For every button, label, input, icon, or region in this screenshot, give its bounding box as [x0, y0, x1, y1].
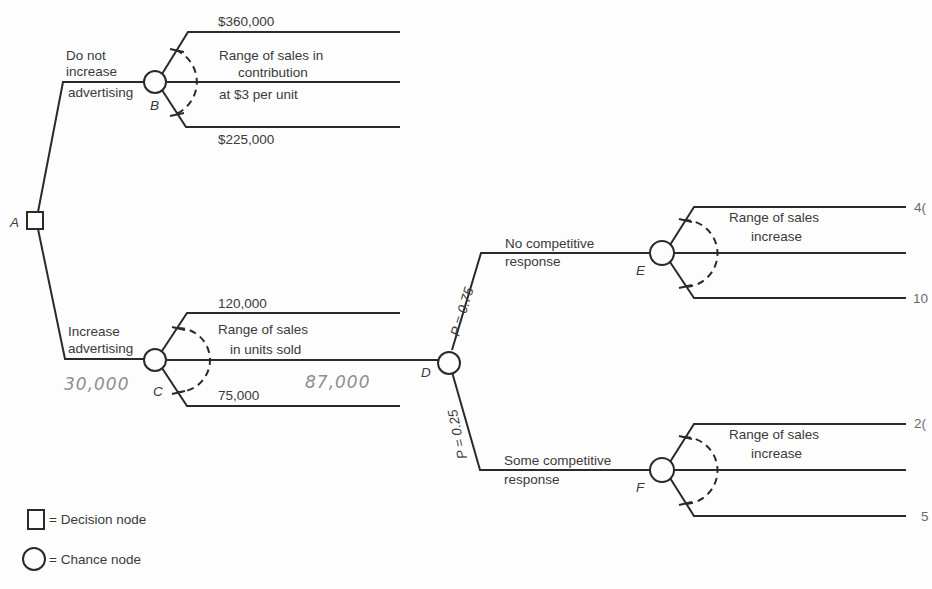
- node-label-e: E: [636, 263, 646, 278]
- branch-do-not-increase: [38, 82, 145, 212]
- branch-label-increase-2: advertising: [68, 341, 133, 356]
- f-high-value-cropped: 2(: [914, 416, 927, 431]
- e-low-value-cropped: 10: [913, 291, 928, 306]
- node-label-d: D: [421, 365, 431, 380]
- legend-decision-label: = Decision node: [49, 512, 146, 527]
- chance-node-e: [650, 241, 674, 265]
- branch-label-do-not-3: advertising: [68, 85, 133, 100]
- f-low-value-cropped: 5: [921, 509, 929, 524]
- b-range-text-2: contribution: [238, 65, 308, 80]
- chance-node-b: [144, 71, 166, 93]
- d-top-label-1: No competitive: [505, 236, 594, 251]
- c-range-text-1: Range of sales: [218, 322, 308, 337]
- node-label-a: A: [9, 215, 19, 230]
- chance-node-d: [438, 352, 460, 374]
- chance-node-f: [650, 458, 674, 482]
- c-range-text-2: in units sold: [230, 342, 301, 357]
- e-high-value-cropped: 4(: [914, 200, 927, 215]
- branch-label-do-not-2: increase: [66, 64, 117, 79]
- node-label-f: F: [636, 480, 645, 495]
- b-low-value: $225,000: [218, 132, 274, 147]
- c-high-value: 120,000: [218, 296, 267, 311]
- decision-node-a: [27, 212, 43, 229]
- branch-increase: [38, 229, 145, 359]
- e-range-text-1: Range of sales: [729, 210, 819, 225]
- e-range-text-2: increase: [751, 229, 802, 244]
- d-bottom-label-1: Some competitive: [504, 453, 611, 468]
- branch-label-increase-1: Increase: [68, 324, 120, 339]
- legend-decision-icon: [28, 510, 44, 529]
- legend-chance-label: = Chance node: [49, 552, 141, 567]
- c-low-value: 75,000: [218, 388, 259, 403]
- legend-chance-icon: [23, 548, 45, 570]
- prob-top: P = 0.75: [448, 285, 477, 338]
- node-label-c: C: [153, 384, 163, 399]
- prob-bottom: P = 0.25: [445, 408, 470, 461]
- f-range-text-1: Range of sales: [729, 427, 819, 442]
- b-range-text-1: Range of sales in: [219, 48, 323, 63]
- d-top-label-2: response: [505, 254, 561, 269]
- handwritten-note-30000: 30,000: [64, 374, 129, 394]
- f-range-text-2: increase: [751, 446, 802, 461]
- b-range-text-3: at $3 per unit: [219, 87, 298, 102]
- b-high-value: $360,000: [218, 14, 274, 29]
- handwritten-note-87000: 87,000: [305, 372, 370, 392]
- d-bottom-label-2: response: [504, 472, 560, 487]
- branch-label-do-not-1: Do not: [66, 48, 106, 63]
- node-label-b: B: [150, 98, 159, 113]
- decision-tree-diagram: A Do not increase advertising Increase a…: [0, 0, 932, 589]
- chance-node-c: [144, 349, 166, 371]
